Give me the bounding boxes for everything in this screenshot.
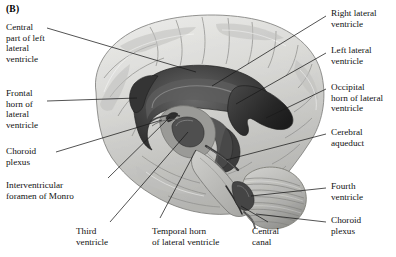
label-right-lateral-ventricle: Right lateral ventricle (331, 8, 377, 29)
label-fourth-ventricle: Fourth ventricle (331, 181, 363, 202)
label-choroid-plexus-right: Choroid plexus (331, 215, 361, 236)
label-frontal-horn-lateral-ventricle: Frontal horn of lateral ventricle (6, 88, 38, 130)
panel-label: (B) (6, 4, 19, 14)
label-cerebral-aqueduct: Cerebral aqueduct (331, 127, 364, 148)
label-temporal-horn-lateral-ventricle: Temporal horn of lateral ventricle (152, 226, 219, 247)
label-interventricular-foramen-of-monro: Interventricular foramen of Monro (6, 180, 74, 201)
label-third-ventricle: Third ventricle (76, 226, 108, 247)
label-central-canal: Central canal (252, 226, 279, 247)
label-choroid-plexus-left: Choroid plexus (6, 146, 36, 167)
label-left-lateral-ventricle: Left lateral ventricle (331, 45, 372, 66)
label-occipital-horn-lateral-ventricle: Occipital horn of lateral ventricle (331, 82, 383, 114)
label-central-part-left-lateral-ventricle: Central part of left lateral ventricle (6, 22, 45, 64)
figure-panel-b: (B) Central part of left lateral ventric… (0, 0, 396, 257)
